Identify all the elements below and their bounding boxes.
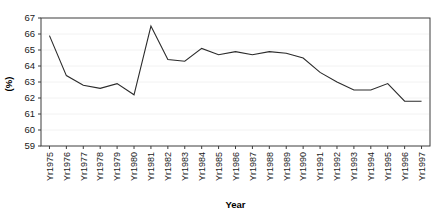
x-tick-label: Yr1988 xyxy=(265,152,275,181)
x-tick-label: Yr1975 xyxy=(45,152,55,181)
x-tick-label: Yr1985 xyxy=(214,152,224,181)
x-tick-label: Yr1991 xyxy=(315,152,325,181)
x-tick-label: Yr1983 xyxy=(180,152,190,181)
x-tick-label: Yr1982 xyxy=(163,152,173,181)
x-tick-label: Yr1981 xyxy=(146,152,156,181)
x-tick-label: Yr1996 xyxy=(400,152,410,181)
line-chart: 596061626364656667 Yr1975Yr1976Yr1977Yr1… xyxy=(0,0,442,218)
data-series-line xyxy=(49,26,421,101)
chart-container: 596061626364656667 Yr1975Yr1976Yr1977Yr1… xyxy=(0,0,442,218)
x-tick-label: Yr1980 xyxy=(129,152,139,181)
y-tick-label: 60 xyxy=(24,124,35,135)
x-tick-label: Yr1993 xyxy=(349,152,359,181)
x-axis-title: Year xyxy=(225,199,245,210)
x-tick-label: Yr1986 xyxy=(231,152,241,181)
x-tick-label: Yr1997 xyxy=(417,152,427,181)
y-tick-label: 63 xyxy=(24,76,35,87)
x-tick-label: Yr1979 xyxy=(112,152,122,181)
x-tick-label: Yr1976 xyxy=(62,152,72,181)
y-tick-label: 67 xyxy=(24,12,35,23)
x-tick-label: Yr1992 xyxy=(332,152,342,181)
gridlines-group xyxy=(42,34,429,130)
x-tick-label: Yr1987 xyxy=(248,152,258,181)
x-tick-label: Yr1978 xyxy=(95,152,105,181)
x-tick-label: Yr1989 xyxy=(282,152,292,181)
y-tick-label: 61 xyxy=(24,108,35,119)
y-tick-labels-group: 596061626364656667 xyxy=(24,12,35,151)
y-tick-label: 59 xyxy=(24,140,35,151)
y-tick-label: 64 xyxy=(24,60,35,71)
x-tick-label: Yr1977 xyxy=(79,152,89,181)
x-tick-label: Yr1990 xyxy=(298,152,308,181)
x-tick-label: Yr1994 xyxy=(366,152,376,181)
y-axis-title: (%) xyxy=(3,77,14,92)
y-tick-label: 65 xyxy=(24,44,35,55)
x-tick-label: Yr1984 xyxy=(197,152,207,181)
y-tick-label: 66 xyxy=(24,28,35,39)
y-tick-label: 62 xyxy=(24,92,35,103)
x-tick-labels-group: Yr1975Yr1976Yr1977Yr1978Yr1979Yr1980Yr19… xyxy=(45,152,427,181)
x-tick-label: Yr1995 xyxy=(383,152,393,181)
